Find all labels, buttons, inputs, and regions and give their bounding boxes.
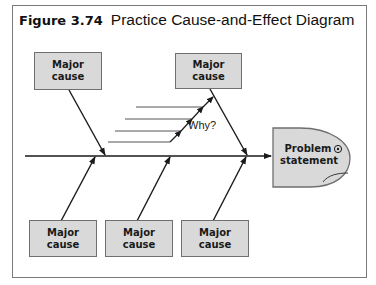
cause-label-line1: Major (52, 59, 84, 71)
cause-label-line1: Major (123, 227, 155, 239)
cause-label-line2: cause (47, 239, 80, 251)
cause-label-line2: cause (52, 71, 85, 83)
why-chain-seg-3 (192, 107, 203, 119)
major-cause-box-top-right: Major cause (175, 53, 242, 89)
why-chain-seg-1 (170, 131, 181, 142)
problem-label-line2: statement (280, 155, 336, 167)
cause-label-line2: cause (199, 239, 232, 251)
problem-label-line1: Problem (280, 143, 336, 155)
top-left-cause-arrow (69, 90, 105, 155)
cause-label-line1: Major (193, 59, 225, 71)
cause-label-line1: Major (47, 227, 79, 239)
bottom-left-cause-arrow (61, 157, 95, 221)
major-cause-box-bottom-middle: Major cause (105, 220, 173, 257)
major-cause-box-bottom-left: Major cause (29, 220, 97, 257)
problem-statement-label: Problem statement (280, 143, 336, 167)
major-cause-box-top-left: Major cause (34, 52, 102, 90)
cause-label-line2: cause (192, 71, 225, 83)
major-cause-box-bottom-right: Major cause (181, 220, 249, 257)
cause-label-line1: Major (199, 227, 231, 239)
bottom-right-cause-arrow (213, 157, 246, 221)
bottom-middle-cause-arrow (137, 157, 170, 221)
why-chain-seg-4 (203, 97, 213, 107)
why-label: Why? (188, 119, 216, 131)
cause-label-line2: cause (123, 239, 156, 251)
